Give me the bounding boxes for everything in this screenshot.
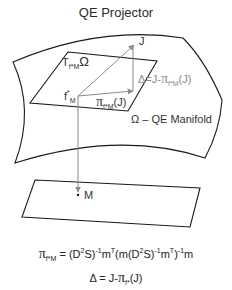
delta-label: Δ=J-πf*M(J) [138, 71, 191, 87]
formula-part: (m(D [115, 248, 139, 260]
pi-arg: (J) [114, 96, 127, 108]
formula-part: = (D [56, 248, 80, 260]
formula-part: S) [84, 248, 95, 260]
formula-sup: 2 [81, 247, 85, 254]
formula-part: m [102, 248, 111, 260]
formula-sup: -1 [154, 247, 160, 254]
delta-formula: Δ = J-πf*(J) [0, 270, 232, 286]
formula-pi-sub: f*M [46, 255, 57, 262]
formula-sup: T [111, 247, 115, 254]
tangent-space-label: Tf*MΩ [62, 54, 89, 69]
manifold-label: Ω – QE Manifold [131, 113, 212, 125]
omega-symbol: Ω [79, 54, 89, 69]
delta-formula-arg: (J) [130, 272, 143, 284]
tangent-sub: f*M [69, 63, 80, 70]
projection-label: πf*M(J) [96, 94, 126, 110]
f-sub: M [70, 97, 76, 104]
delta-formula-lhs: Δ = J- [89, 272, 117, 284]
formula-part: m [184, 248, 193, 260]
point-M-dot [77, 194, 79, 196]
delta-formula-pi: π [118, 270, 125, 285]
delta-arg: (J) [179, 73, 192, 85]
f-sup: * [67, 89, 70, 96]
formula-sup: 2 [140, 247, 144, 254]
point-J-label: J [139, 35, 145, 47]
delta-rhs: J- [152, 73, 161, 85]
point-M-label: M [84, 189, 93, 201]
formula-pi: π [39, 246, 46, 261]
formula-sup: T [170, 247, 174, 254]
delta-formula-sub: f* [125, 279, 130, 286]
formula-sup: -1 [95, 247, 101, 254]
pi-sub: f*M [103, 103, 114, 110]
delta-sub: f*M [168, 80, 179, 87]
tangent-base: T [62, 56, 69, 68]
point-f-label: f*M [64, 90, 76, 102]
delta-lhs: Δ= [138, 73, 152, 85]
lower-plane [22, 180, 200, 227]
delta-pi: π [161, 71, 168, 86]
formula-sup: -1 [178, 247, 184, 254]
formula-part: m [161, 248, 170, 260]
formula-part: S) [143, 248, 154, 260]
projector-formula: πf*M = (D2S)-1mT(m(D2S)-1mT)-1m [0, 246, 232, 262]
